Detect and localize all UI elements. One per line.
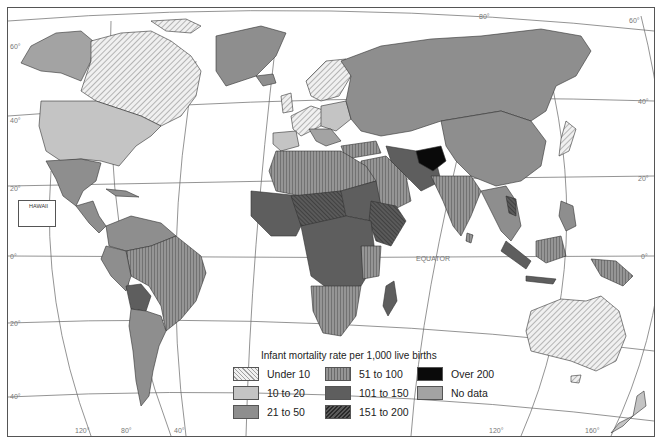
legend-item-51-to-100: 51 to 100 — [325, 366, 403, 382]
cuba — [106, 189, 139, 197]
legend-item-151-to-200: 151 to 200 — [325, 404, 409, 420]
legend-item-under-10: Under 10 — [233, 366, 310, 382]
legend-swatch-10-to-20 — [233, 386, 259, 400]
hawaii-inset: HAWAII — [18, 200, 56, 227]
legend-swatch-over-200 — [417, 367, 443, 381]
svg-text:80°: 80° — [479, 13, 490, 20]
iberia — [273, 131, 299, 151]
svg-text:20°: 20° — [10, 320, 21, 327]
iceland — [256, 74, 276, 86]
legend: Infant mortality rate per 1,000 live bir… — [225, 350, 465, 430]
tasmania — [571, 375, 581, 383]
svg-text:20°: 20° — [638, 175, 649, 182]
legend-item-over-200: Over 200 — [417, 366, 494, 382]
mexico — [46, 159, 101, 206]
uk — [281, 93, 293, 113]
svg-text:60°: 60° — [629, 17, 640, 24]
legend-label: 10 to 20 — [267, 387, 305, 399]
legend-label: Under 10 — [267, 368, 310, 380]
europe — [216, 26, 351, 151]
east-africa — [361, 246, 381, 279]
svg-text:40°: 40° — [174, 427, 185, 434]
new-guinea — [591, 259, 633, 286]
sri-lanka — [466, 233, 473, 243]
arctic-islands — [151, 19, 201, 33]
legend-swatch-21-to-50 — [233, 405, 259, 419]
hawaii-label: HAWAII — [29, 203, 48, 209]
peru — [101, 246, 131, 291]
svg-text:0°: 0° — [10, 253, 17, 260]
legend-swatch-under-10 — [233, 367, 259, 381]
alaska — [21, 31, 93, 81]
china — [441, 111, 546, 186]
ethiopia-somalia — [369, 201, 406, 246]
svg-text:40°: 40° — [10, 393, 21, 400]
svg-text:80°: 80° — [121, 427, 132, 434]
legend-label: 101 to 150 — [359, 387, 409, 399]
svg-text:40°: 40° — [638, 98, 649, 105]
south-america — [101, 216, 206, 406]
asia — [341, 29, 633, 286]
australia — [526, 296, 626, 371]
madagascar — [383, 281, 397, 316]
legend-label: 21 to 50 — [267, 406, 305, 418]
legend-item-10-to-20: 10 to 20 — [233, 385, 305, 401]
legend-label: Over 200 — [451, 368, 494, 380]
svg-text:20°: 20° — [10, 185, 21, 192]
svg-text:0°: 0° — [641, 253, 648, 260]
legend-swatch-101-to-150 — [325, 386, 351, 400]
svg-text:EQUATOR: EQUATOR — [416, 255, 450, 263]
legend-title: Infant mortality rate per 1,000 live bir… — [261, 350, 437, 361]
new-zealand-north — [633, 391, 646, 416]
svg-text:60°: 60° — [10, 43, 21, 50]
legend-label: 51 to 100 — [359, 368, 403, 380]
legend-swatch-no-data — [417, 386, 443, 400]
svg-text:120°: 120° — [489, 427, 504, 434]
greenland — [216, 26, 286, 86]
legend-item-21-to-50: 21 to 50 — [233, 404, 305, 420]
philippines — [559, 201, 576, 231]
southern-africa — [311, 286, 361, 336]
central-america — [76, 201, 106, 233]
japan — [559, 121, 576, 156]
legend-swatch-151-to-200 — [325, 405, 351, 419]
legend-label: 151 to 200 — [359, 406, 409, 418]
svg-text:40°: 40° — [10, 117, 21, 124]
argentina-chile — [129, 309, 166, 406]
legend-swatch-51-to-100 — [325, 367, 351, 381]
oceania — [526, 296, 646, 433]
italy-balkans — [309, 129, 341, 146]
india — [431, 176, 481, 236]
sumatra — [501, 241, 531, 269]
legend-item-no-data: No data — [417, 385, 488, 401]
java — [526, 276, 556, 284]
svg-text:120°: 120° — [75, 427, 90, 434]
new-zealand-south — [611, 416, 633, 433]
legend-item-101-to-150: 101 to 150 — [325, 385, 409, 401]
eastern-europe — [321, 101, 351, 131]
svg-text:160°: 160° — [585, 427, 600, 434]
legend-label: No data — [451, 387, 488, 399]
bolivia — [126, 284, 151, 311]
borneo — [536, 236, 566, 263]
